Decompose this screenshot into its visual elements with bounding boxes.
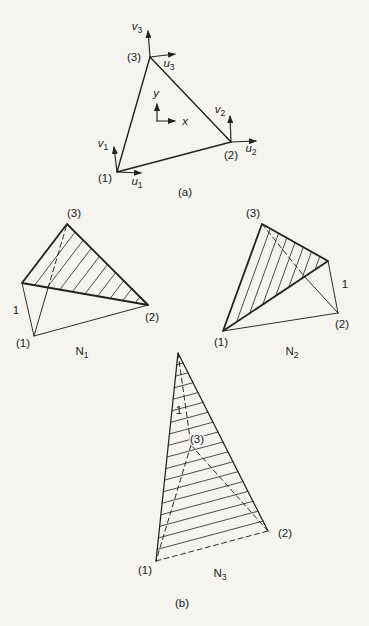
n3-node2-label: (2): [278, 527, 292, 539]
n3-label: N3: [213, 567, 226, 582]
n1-node3-label: (3): [67, 207, 81, 219]
n1-base-edges: [22, 283, 148, 336]
n1-hidden-edge-dashed: [48, 224, 67, 288]
u2-label: u2: [245, 142, 256, 157]
n2-unit-height-label: 1: [342, 278, 348, 290]
v3-arrow: [148, 31, 150, 57]
node2-label: (2): [224, 149, 238, 161]
y-axis-label: y: [152, 87, 160, 99]
n3-hidden-edges-dashed: [156, 353, 268, 561]
n1-surface-hatching: [35, 232, 140, 303]
n3-node1-label: (1): [138, 564, 152, 576]
shape-function-n2: (3) (1) (2) 1 N2: [214, 207, 349, 360]
n3-front-edges: [156, 353, 268, 561]
shape-function-n3: 1 (3) (1) (2) N3: [138, 353, 292, 582]
n2-node2-label: (2): [335, 318, 349, 330]
fem-triangle-shape-function-figure: y x (1) v1 u1 (2) v2 u2 (3) v3 u3 (a): [0, 0, 369, 626]
n1-label: N1: [75, 345, 88, 360]
node1-label: (1): [98, 172, 112, 184]
n3-surface-hatching: [157, 363, 263, 550]
v3-label: v3: [132, 20, 143, 35]
shape-function-n1: (3) (2) (1) 1 N1: [13, 207, 159, 360]
n1-node1-label: (1): [16, 337, 30, 349]
textbook-figure-page: y x (1) v1 u1 (2) v2 u2 (3) v3 u3 (a): [0, 0, 369, 626]
n2-node3-label: (3): [246, 207, 260, 219]
x-axis-label: x: [181, 115, 189, 127]
n3-unit-height-label: 1: [176, 404, 182, 416]
v1-label: v1: [98, 137, 109, 152]
node3-label: (3): [127, 51, 141, 63]
n2-label: N2: [285, 345, 298, 360]
u2-arrow: [231, 141, 256, 142]
n2-hidden-edge-dashed: [262, 224, 304, 276]
part-a-element-diagram: y x (1) v1 u1 (2) v2 u2 (3) v3 u3 (a): [98, 20, 257, 198]
u1-label: u1: [131, 175, 142, 190]
caption-b: (b): [175, 597, 189, 609]
v1-arrow: [114, 147, 117, 172]
n1-node2-label: (2): [145, 311, 159, 323]
v2-label: v2: [215, 103, 226, 118]
n3-node3-label: (3): [190, 433, 204, 445]
v2-arrow: [230, 116, 231, 142]
n2-node1-label: (1): [214, 336, 228, 348]
caption-a: (a): [178, 186, 192, 198]
u3-label: u3: [163, 57, 174, 72]
u1-arrow: [117, 172, 141, 173]
n1-unit-height-label: 1: [13, 304, 19, 316]
